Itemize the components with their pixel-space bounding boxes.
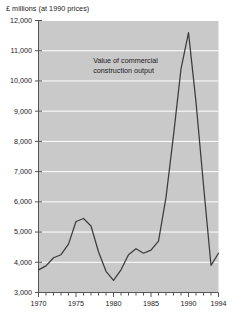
annotation-line-1: Value of commercial: [93, 56, 158, 65]
annotation-line-2: construction output: [93, 66, 158, 75]
y-axis-tick-label: 10,000: [2, 76, 32, 85]
x-axis-tick-label: 1990: [174, 299, 204, 308]
y-axis-tick-label: 11,000: [2, 46, 32, 55]
x-axis-tick-label: 1994: [204, 299, 233, 308]
y-axis-tick-label: 12,000: [2, 16, 32, 25]
y-axis-tick-label: 7,000: [2, 167, 32, 176]
y-axis-tick-label: 3,000: [2, 288, 32, 297]
series-annotation: Value of commercial construction output: [93, 56, 158, 75]
x-axis-tick-label: 1980: [99, 299, 129, 308]
plot-area: [0, 0, 232, 318]
y-axis-tick-label: 9,000: [2, 107, 32, 116]
y-axis-tick-label: 6,000: [2, 197, 32, 206]
y-axis-tick-label: 5,000: [2, 227, 32, 236]
x-axis-tick-label: 1975: [61, 299, 91, 308]
chart-container: £ millions (at 1990 prices) 12,00011,000…: [0, 0, 232, 318]
x-axis-tick-label: 1970: [24, 299, 54, 308]
x-axis-tick-label: 1985: [136, 299, 166, 308]
y-axis-tick-label: 4,000: [2, 258, 32, 267]
y-axis-tick-label: 8,000: [2, 137, 32, 146]
x-axis-tickmarks: [39, 293, 219, 298]
